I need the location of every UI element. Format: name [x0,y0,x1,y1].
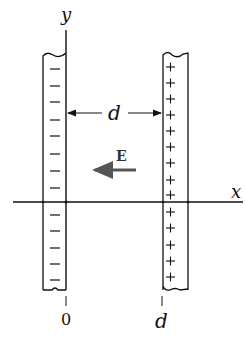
x-axis-label: x [231,181,241,202]
negative-charges [50,69,60,280]
separation-label: d [108,101,121,125]
positive-charges [166,63,175,282]
capacitor-diagram: y d E x 0 [0,0,245,337]
field-label: E [116,148,127,164]
y-axis-label: y [60,4,72,25]
left-plate [43,53,66,290]
position-label-zero: 0 [61,310,71,329]
position-label-d: d [155,309,168,333]
right-plate [163,53,188,291]
